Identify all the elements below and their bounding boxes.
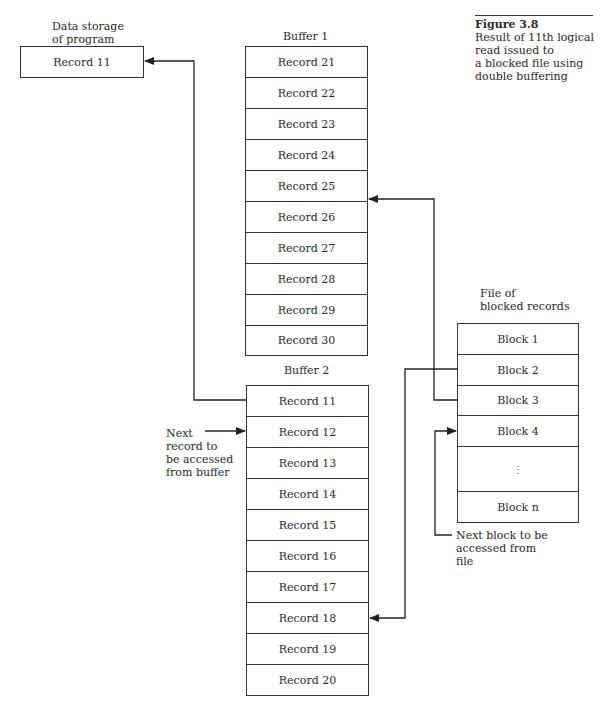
arrow-buffer2-to-program	[145, 61, 246, 400]
arrow-block2-to-buffer2	[370, 369, 457, 618]
connector-lines	[0, 0, 601, 705]
arrow-next-block	[435, 431, 456, 535]
arrow-block3-to-buffer1	[369, 199, 457, 400]
